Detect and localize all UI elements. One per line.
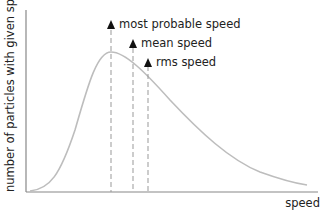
y-axis-label: number of particles with given speed xyxy=(3,7,17,192)
triangle-up-icon xyxy=(144,58,152,67)
most-probable-speed-label: most probable speed xyxy=(119,17,241,31)
mean-speed-marker: mean speed xyxy=(129,36,212,50)
x-axis-label: speed xyxy=(285,196,320,210)
distribution-plot xyxy=(0,0,328,213)
rms-speed-marker: rms speed xyxy=(144,55,216,69)
mean-speed-label: mean speed xyxy=(141,36,212,50)
most-probable-speed-marker: most probable speed xyxy=(107,17,241,31)
triangle-up-icon xyxy=(129,39,137,48)
triangle-up-icon xyxy=(107,20,115,29)
distribution-curve xyxy=(30,52,307,191)
rms-speed-label: rms speed xyxy=(156,55,216,69)
